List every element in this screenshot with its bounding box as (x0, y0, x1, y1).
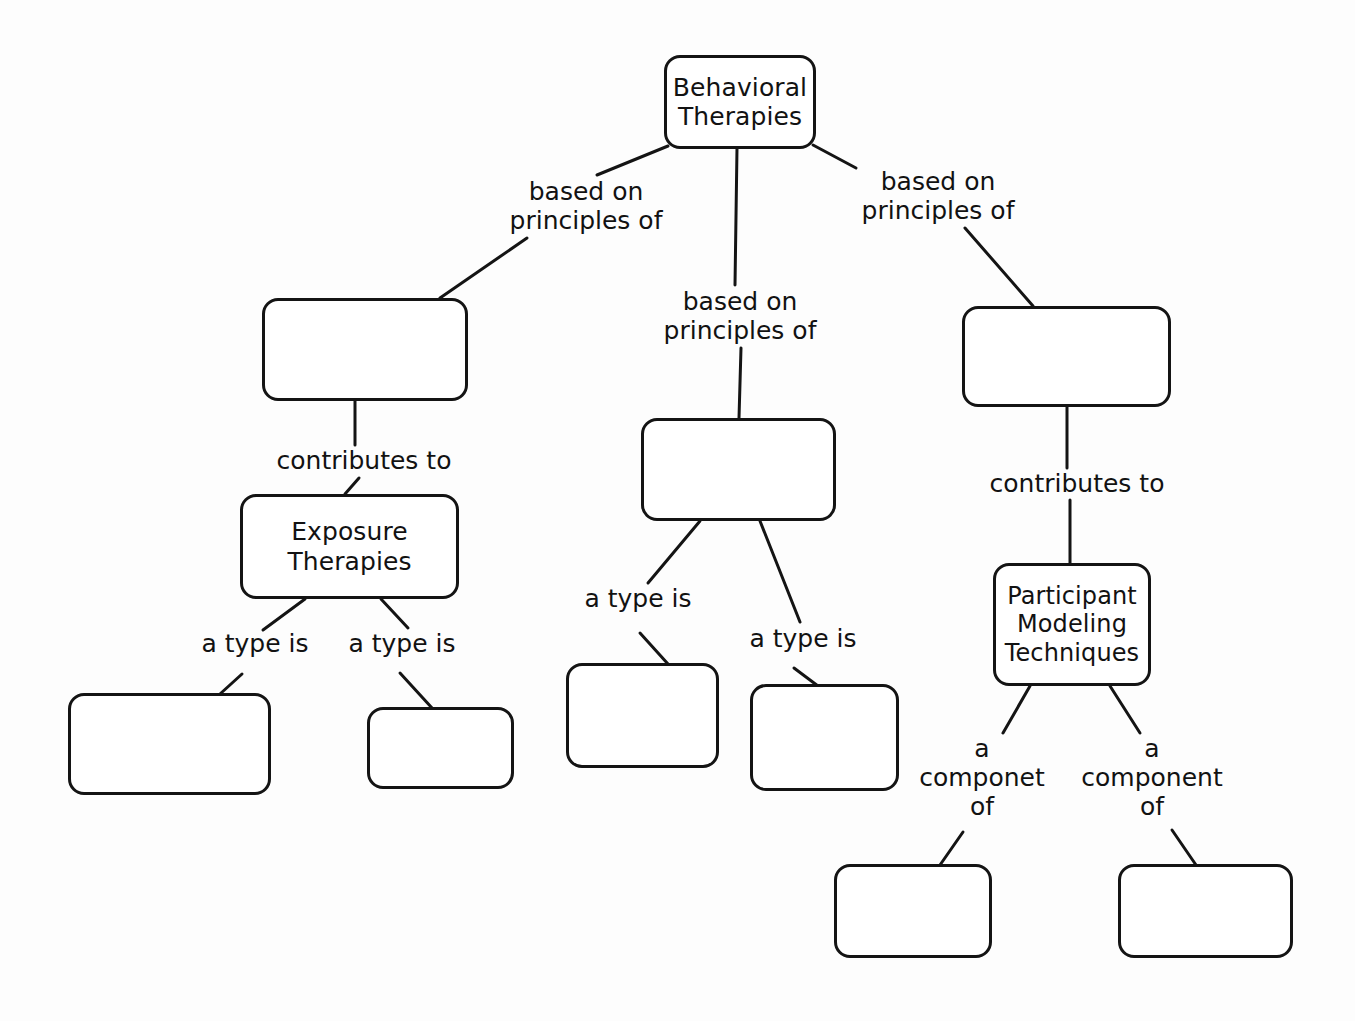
edge-e-part-comp1-a (1003, 686, 1030, 733)
edge-e-part-comp2-a (1110, 686, 1140, 733)
node-left-leaf-2[interactable] (367, 707, 514, 789)
edge-label-lbl-component-of: a component of (1072, 735, 1232, 821)
node-center-leaf-2[interactable] (750, 684, 899, 791)
edge-label-lbl-right-based: based on principles of (838, 168, 1038, 226)
node-exposure[interactable]: Exposure Therapies (240, 494, 459, 599)
edge-label-lbl-type-2: a type is (337, 630, 467, 659)
edge-label-lbl-type-4: a type is (738, 625, 868, 654)
concept-map-canvas: Behavioral TherapiesExposure TherapiesPa… (0, 0, 1355, 1021)
node-right-top[interactable] (962, 306, 1171, 407)
node-participant[interactable]: Participant Modeling Techniques (993, 563, 1151, 686)
edge-e-root-center (735, 148, 737, 285)
edge-label-lbl-right-contrib: contributes to (982, 470, 1172, 499)
edge-label-lbl-center-based: based on principles of (640, 288, 840, 346)
node-root[interactable]: Behavioral Therapies (664, 55, 816, 149)
edge-label-lbl-left-based: based on principles of (486, 178, 686, 236)
edge-e-root-right (813, 145, 856, 168)
node-left-top[interactable] (262, 298, 468, 401)
node-label-exposure: Exposure Therapies (287, 517, 411, 576)
node-label-participant: Participant Modeling Techniques (1005, 582, 1139, 667)
edge-e-left-contrib-b (345, 478, 359, 494)
edge-e-ctr-type4-a (760, 521, 800, 622)
edge-e-right-top (965, 228, 1033, 306)
node-label-root: Behavioral Therapies (673, 73, 807, 132)
edge-e-ctr-type3-a (648, 521, 700, 583)
edge-e-exp-type1-a (263, 599, 305, 630)
node-right-leaf-2[interactable] (1118, 864, 1293, 958)
edge-label-lbl-left-contrib: contributes to (269, 447, 459, 476)
node-center-top[interactable] (641, 418, 836, 521)
edge-e-ctr-type3-b (640, 633, 668, 664)
edge-e-part-comp1-b (940, 832, 963, 865)
edge-label-lbl-type-1: a type is (190, 630, 320, 659)
edge-e-root-left (597, 146, 668, 175)
edge-e-left-top (440, 238, 527, 298)
edge-e-exp-type2-b (400, 673, 432, 708)
edge-e-center-top (739, 348, 741, 418)
node-left-leaf-1[interactable] (68, 693, 271, 795)
node-center-leaf-1[interactable] (566, 663, 719, 768)
edge-e-part-comp2-b (1172, 830, 1196, 865)
edge-label-lbl-type-3: a type is (573, 585, 703, 614)
edge-e-exp-type1-b (220, 674, 242, 694)
edge-e-exp-type2-a (381, 599, 408, 628)
node-right-leaf-1[interactable] (834, 864, 992, 958)
edge-label-lbl-componet-of: a componet of (907, 735, 1057, 821)
